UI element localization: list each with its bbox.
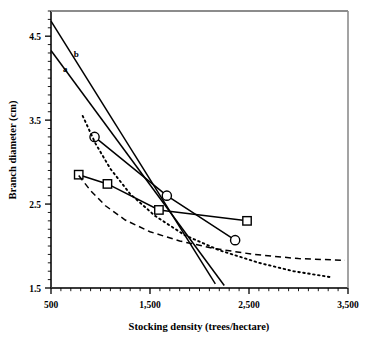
- axes-spines: [51, 11, 348, 288]
- curve-label-b: b: [74, 49, 79, 59]
- data-series-layer: [51, 21, 345, 285]
- marker-square: [103, 180, 111, 188]
- series-a: [51, 50, 224, 285]
- series-line: [51, 21, 215, 284]
- y-tick-label: 4.5: [29, 32, 41, 42]
- series-circle-series: [90, 132, 240, 244]
- y-tick-label: 2.5: [29, 200, 41, 210]
- x-tick-label: 500: [44, 300, 59, 310]
- curve-label-a: a: [63, 64, 68, 74]
- x-tick-label: 3,500: [337, 300, 359, 310]
- y-tick-label: 3.5: [29, 116, 41, 126]
- x-axis-tick-labels: 5001,5002,5003,500: [44, 300, 359, 310]
- series-b: [51, 21, 215, 284]
- y-tick-label: 1.5: [29, 284, 41, 294]
- marker-square: [155, 206, 163, 214]
- series-line: [83, 116, 331, 277]
- branch-diameter-chart: ab 5001,5002,5003,500 1.52.53.54.5 Stock…: [0, 0, 367, 339]
- y-axis-title: Branch diameter (cm): [7, 100, 19, 199]
- marker-square: [243, 217, 251, 225]
- x-axis-title: Stocking density (trees/hectare): [129, 321, 270, 333]
- y-axis-tick-labels: 1.52.53.54.5: [29, 32, 41, 294]
- marker-square: [75, 170, 83, 178]
- x-tick-label: 2,500: [238, 300, 260, 310]
- marker-circle: [231, 236, 240, 245]
- series-dotted-curve: [83, 116, 331, 277]
- series-line: [51, 50, 224, 285]
- x-tick-label: 1,500: [139, 300, 161, 310]
- marker-circle: [162, 191, 171, 200]
- figure-container: ab 5001,5002,5003,500 1.52.53.54.5 Stock…: [0, 0, 367, 339]
